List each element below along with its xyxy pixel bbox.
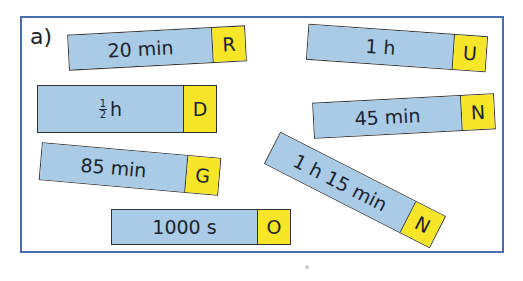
card-half-h: 1 2 h D <box>37 85 217 133</box>
card-value: 45 min <box>313 96 463 138</box>
card-letter: U <box>453 35 487 71</box>
card-letter: O <box>258 210 290 244</box>
fraction: 1 2 <box>99 99 107 120</box>
card-value: 1000 s <box>112 210 258 244</box>
card-letter: R <box>212 26 246 62</box>
exercise-label: a) <box>30 24 52 49</box>
card-letter: D <box>184 86 216 132</box>
card-letter: N <box>461 94 495 130</box>
card-1000-s: 1000 s O <box>111 209 291 245</box>
card-letter: G <box>185 156 220 195</box>
card-value: 20 min <box>68 28 214 69</box>
card-value: 1 2 h <box>38 86 184 132</box>
decorative-dot <box>305 265 309 269</box>
